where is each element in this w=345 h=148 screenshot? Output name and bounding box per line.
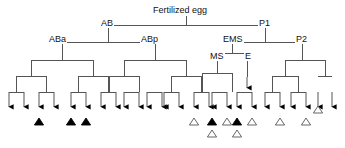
label-p1: P1 — [258, 18, 271, 28]
marker-open-p2-3 — [313, 106, 322, 113]
label-aba: ABa — [48, 34, 67, 44]
lineage-tree-graphic — [0, 0, 345, 148]
label-ab: AB — [100, 18, 114, 28]
marker-filled-ms-1 — [207, 118, 216, 125]
marker-filled-aba-3 — [81, 118, 90, 125]
marker-open-p2-2 — [301, 118, 310, 125]
marker-filled-aba-1 — [34, 118, 43, 125]
marker-open-ms-3 — [207, 130, 216, 137]
marker-open-ms-4 — [232, 130, 241, 137]
label-abp: ABp — [140, 34, 159, 44]
marker-open-ms-2 — [247, 118, 256, 125]
tree-edges — [9, 16, 332, 92]
marker-open-p2-1 — [275, 118, 284, 125]
marker-filled-ms-2 — [232, 118, 241, 125]
label-p2: P2 — [295, 34, 308, 44]
marker-filled-aba-2 — [66, 118, 75, 125]
label-fertilized-egg: Fertilized egg — [152, 5, 208, 15]
lineage-diagram: Fertilized eggABP1ABaABpEMSP2MSE — [0, 0, 345, 148]
cell-fate-markers — [34, 106, 322, 137]
marker-open-ms-1 — [222, 118, 231, 125]
label-ms: MS — [209, 51, 225, 61]
marker-open-abp-1 — [189, 118, 198, 125]
label-e: E — [244, 51, 252, 61]
label-ems: EMS — [222, 34, 244, 44]
